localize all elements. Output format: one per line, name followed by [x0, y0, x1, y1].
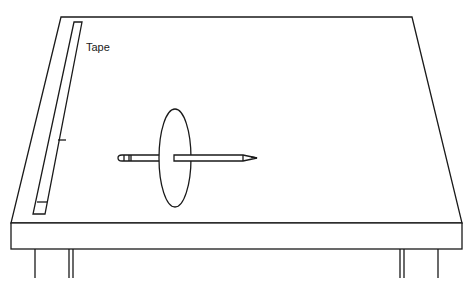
pencil-front — [174, 155, 257, 161]
table-diagram — [0, 0, 471, 286]
pencil — [118, 155, 160, 161]
table-front-edge — [11, 223, 462, 249]
table-top — [11, 17, 462, 223]
table-legs — [35, 249, 438, 278]
tape-label: Tape — [86, 41, 110, 53]
